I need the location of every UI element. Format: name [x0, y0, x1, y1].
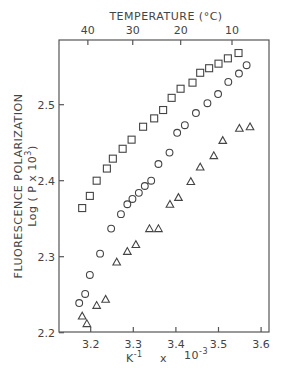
x-axis-times: x: [160, 352, 167, 365]
square-marker: [177, 85, 184, 92]
circle-marker: [215, 91, 222, 98]
circle-marker: [225, 79, 232, 86]
circle-marker: [86, 272, 93, 279]
triangle-marker: [236, 124, 244, 131]
square-marker: [151, 115, 158, 122]
x-tick-label: 3.6: [252, 338, 270, 351]
square-marker: [215, 60, 222, 67]
y-axis-title-line1: FLUORESCENCE POLARIZATION: [12, 94, 25, 279]
circle-marker: [236, 70, 243, 77]
square-marker: [168, 94, 175, 101]
arrhenius-scatter-chart: TEMPERATURE (°C) 40302010 3.23.33.43.53.…: [0, 0, 283, 374]
square-marker: [79, 205, 86, 212]
square-marker: [128, 136, 135, 143]
triangle-marker: [102, 295, 110, 302]
triangle-marker: [132, 241, 140, 248]
triangle-marker: [166, 200, 174, 207]
circle-marker: [76, 300, 83, 307]
triangle-marker: [78, 312, 86, 319]
circle-marker: [129, 196, 136, 203]
square-marker: [235, 50, 242, 57]
x-tick-label: 3.4: [167, 338, 185, 351]
circle-marker: [193, 110, 200, 117]
x-axis-base-exp: -3: [199, 347, 208, 356]
square-marker: [109, 155, 116, 162]
circle-marker: [135, 189, 142, 196]
x-tick-label: 3.2: [82, 338, 100, 351]
triangle-marker: [113, 258, 121, 265]
data-points: [76, 50, 254, 327]
square-marker: [197, 69, 204, 76]
triangle-marker: [93, 302, 101, 309]
plot-frame: [59, 40, 269, 332]
circle-marker: [174, 129, 181, 136]
triangle-marker: [219, 137, 227, 144]
square-marker: [119, 145, 126, 152]
svg-text:K-1: K-1: [126, 350, 143, 365]
triangle-marker: [146, 225, 154, 232]
circle-marker: [82, 291, 89, 298]
y-tick-label: 2.5: [38, 99, 56, 112]
y-tick-label: 2.4: [38, 175, 56, 188]
square-marker: [93, 177, 100, 184]
y-axis-title-line2: Log ( P x 103): [24, 145, 39, 226]
y-tick-label: 2.3: [38, 251, 56, 264]
x-tick-label: 3.5: [210, 338, 228, 351]
triangle-marker: [83, 320, 91, 327]
circle-marker: [108, 225, 115, 232]
triangle-marker: [210, 152, 218, 159]
circle-marker: [166, 149, 173, 156]
x-axis-ticks: 3.23.33.43.53.6: [82, 327, 270, 351]
triangle-marker: [155, 225, 163, 232]
top-tick-label: 10: [225, 24, 239, 37]
y-tick-label: 2.2: [38, 327, 56, 340]
triangle-marker: [196, 163, 204, 170]
triangle-marker: [187, 178, 195, 185]
square-marker: [189, 79, 196, 86]
circle-marker: [124, 201, 131, 208]
top-axis-title: TEMPERATURE (°C): [108, 10, 222, 23]
circle-marker: [243, 62, 250, 69]
circle-marker: [181, 122, 188, 129]
square-marker: [206, 65, 213, 72]
x-axis-base: 10: [184, 349, 199, 362]
top-axis-temperature-ticks: 40302010: [81, 24, 239, 45]
square-marker: [160, 107, 167, 114]
circle-marker: [118, 211, 125, 218]
triangle-marker: [246, 123, 254, 130]
square-marker: [224, 55, 231, 62]
circle-marker: [141, 183, 148, 190]
circle-marker: [148, 177, 155, 184]
top-tick-label: 40: [81, 24, 95, 37]
y-axis-title: FLUORESCENCE POLARIZATION Log ( P x 103): [12, 94, 39, 279]
x-axis-unit-exp: -1: [134, 350, 143, 359]
triangle-marker: [175, 194, 183, 201]
square-marker: [140, 123, 147, 130]
circle-marker: [204, 100, 211, 107]
y-axis-ticks: 2.22.32.42.5: [38, 99, 65, 340]
triangle-marker: [124, 248, 132, 255]
circle-marker: [97, 250, 104, 257]
top-tick-label: 30: [126, 24, 140, 37]
circle-marker: [155, 161, 162, 168]
square-marker: [86, 192, 93, 199]
top-tick-label: 20: [174, 24, 188, 37]
square-marker: [103, 165, 110, 172]
svg-text:10-3: 10-3: [184, 347, 208, 362]
